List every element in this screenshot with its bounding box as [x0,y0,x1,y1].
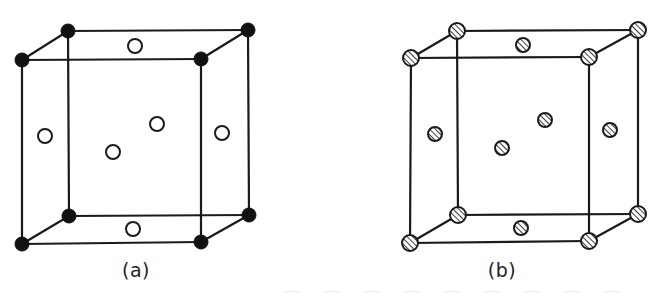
cube-edges-a [22,30,249,244]
corner-atom-front-top-left [403,50,419,66]
cube-edge-back-top [457,30,638,31]
cube-edge-front-left [410,58,411,243]
cube-edge-back-left [457,31,458,215]
cube-edges-b [410,30,638,243]
cube-edge-front-bottom [410,241,589,243]
cube-edge-back-top [68,30,248,31]
atom-body-centre [495,141,509,155]
atom-top-face-centre [128,39,142,53]
corner-atom-front-bottom-left [15,237,29,251]
atom-right-face-centre [215,126,229,140]
corner-atom-back-bottom-right [242,208,256,222]
scan-artifact-band [280,288,640,296]
cube-edge-depth-bottom-left [22,216,69,244]
atom-right-face-centre [603,123,617,137]
corner-atom-back-top-left [61,24,75,38]
corner-atom-back-bottom-left [62,209,76,223]
corner-atom-front-top-right [581,49,597,65]
atom-body-centre [106,145,120,159]
atom-left-face-centre [428,127,442,141]
cube-edge-depth-top-right [201,30,248,59]
corner-atom-back-bottom-right [630,206,646,222]
cube-edge-front-top [411,57,589,58]
atom-bottom-face-centre [126,222,140,236]
atom-back-face-centre [150,117,164,131]
corner-atom-back-top-left [449,23,465,39]
corner-atom-front-bottom-right [581,233,597,249]
corner-atom-front-top-right [194,52,208,66]
corner-atom-front-top-left [15,53,29,67]
corner-atom-back-top-right [241,23,255,37]
cube-edge-back-bottom [69,215,249,216]
cube-edge-depth-bottom-right [201,215,249,242]
corner-atom-back-bottom-left [450,207,466,223]
unit-cell-figure [0,0,658,301]
panel-b [402,22,646,251]
figure-root: (a) (b) [0,0,658,301]
panel-a-caption: (a) [104,259,168,281]
cube-edge-back-left [68,31,69,216]
atom-bottom-face-centre [514,221,528,235]
cube-edge-front-bottom [22,242,201,244]
cube-edge-back-bottom [458,214,638,215]
corner-atom-front-bottom-right [194,235,208,249]
corner-atom-back-top-right [630,22,646,38]
cube-edge-front-top [22,59,201,60]
cube-edge-depth-top-left [22,31,68,60]
atom-top-face-centre [516,38,530,52]
panel-b-caption: (b) [470,259,534,281]
atom-left-face-centre [38,129,52,143]
cube-edge-back-right [248,30,249,215]
atom-back-face-centre [538,113,552,127]
panel-a [15,23,256,251]
corner-atom-front-bottom-left [402,235,418,251]
